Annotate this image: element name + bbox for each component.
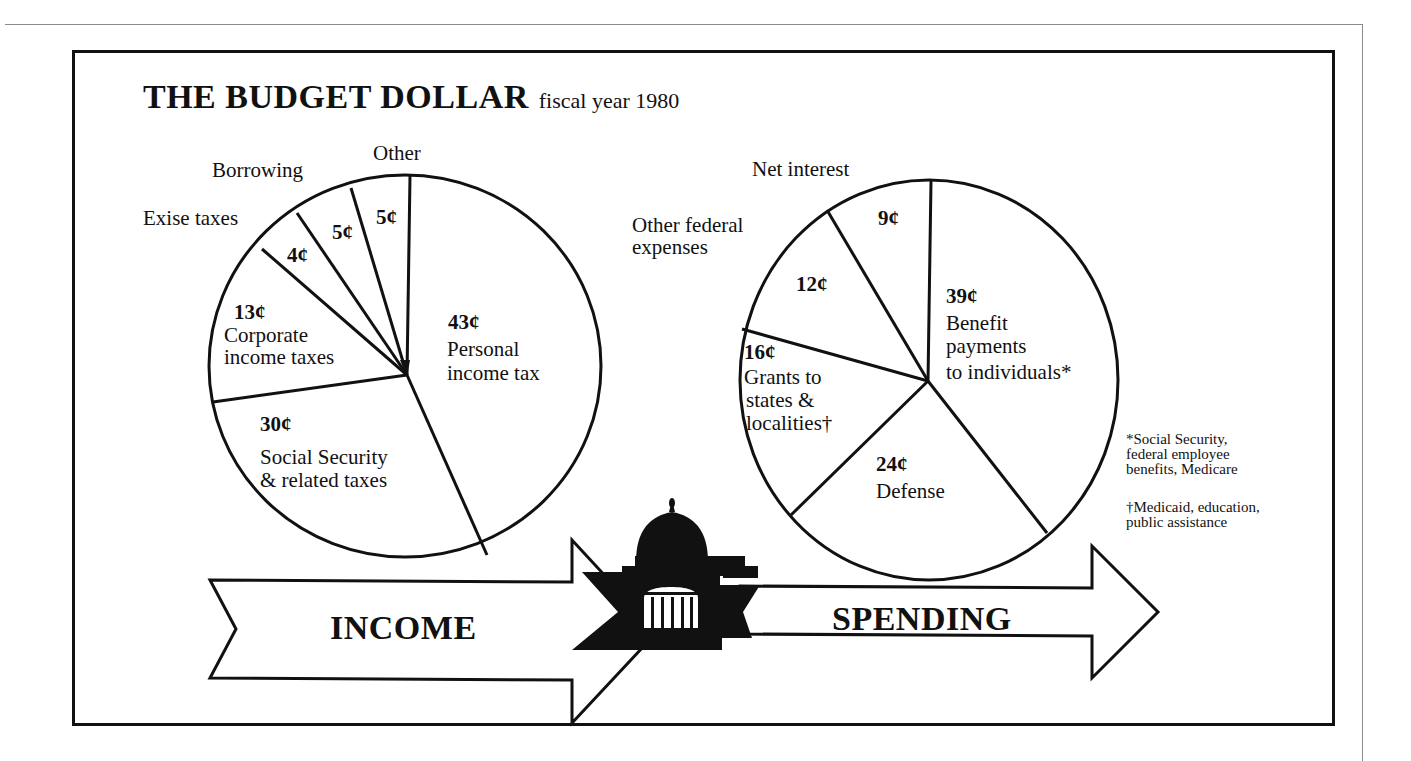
income-value-corporate: 13¢ bbox=[234, 300, 266, 325]
capitol-building-icon bbox=[572, 498, 760, 650]
footnote-asterisk-1: *Social Security, bbox=[1126, 432, 1228, 447]
spending-label-other-2: expenses bbox=[632, 236, 708, 258]
spending-label-net-interest: Net interest bbox=[752, 158, 849, 180]
spending-label-other-1: Other federal bbox=[632, 214, 743, 236]
spending-value-defense: 24¢ bbox=[876, 452, 908, 477]
spending-label-grants-1: Grants to bbox=[744, 366, 822, 388]
spending-value-other: 12¢ bbox=[796, 272, 828, 297]
income-value-borrowing: 5¢ bbox=[332, 220, 353, 245]
income-value-excise: 4¢ bbox=[287, 243, 308, 268]
income-label-corporate-2: income taxes bbox=[224, 346, 334, 368]
income-value-other: 5¢ bbox=[376, 205, 397, 230]
income-label-other: Other bbox=[373, 142, 421, 164]
footnote-asterisk-3: benefits, Medicare bbox=[1126, 462, 1238, 477]
spending-label-benefit-2: payments bbox=[946, 335, 1026, 357]
income-label-corporate-1: Corporate bbox=[224, 324, 308, 346]
footnote-dagger-2: public assistance bbox=[1126, 515, 1227, 530]
spending-label-grants-2: states & bbox=[746, 389, 814, 411]
spending-label-benefit-3: to individuals* bbox=[946, 361, 1071, 383]
income-label-excise: Exise taxes bbox=[143, 207, 238, 229]
income-label-borrowing: Borrowing bbox=[212, 159, 303, 181]
spending-value-net-interest: 9¢ bbox=[878, 206, 899, 231]
spending-label-defense: Defense bbox=[876, 480, 945, 502]
spending-value-benefit: 39¢ bbox=[946, 284, 978, 309]
income-label-social-2: & related taxes bbox=[260, 469, 387, 491]
income-value-social: 30¢ bbox=[260, 412, 292, 437]
footnote-dagger-1: †Medicaid, education, bbox=[1126, 500, 1260, 515]
spending-arrow-label: SPENDING bbox=[832, 600, 1012, 638]
spending-value-grants: 16¢ bbox=[744, 340, 776, 365]
page-title: THE BUDGET DOLLAR fiscal year 1980 bbox=[143, 78, 679, 116]
spending-label-grants-3: localities† bbox=[746, 412, 832, 434]
footnote-asterisk-2: federal employee bbox=[1126, 447, 1230, 462]
income-arrow-label: INCOME bbox=[330, 609, 477, 647]
title-subtitle: fiscal year 1980 bbox=[539, 88, 680, 113]
income-label-personal-1: Personal bbox=[447, 338, 519, 360]
title-main: THE BUDGET DOLLAR bbox=[143, 78, 529, 115]
income-label-personal-2: income tax bbox=[447, 362, 540, 384]
income-value-personal: 43¢ bbox=[448, 310, 480, 335]
income-label-social-1: Social Security bbox=[260, 446, 388, 468]
spending-label-benefit-1: Benefit bbox=[946, 312, 1008, 334]
